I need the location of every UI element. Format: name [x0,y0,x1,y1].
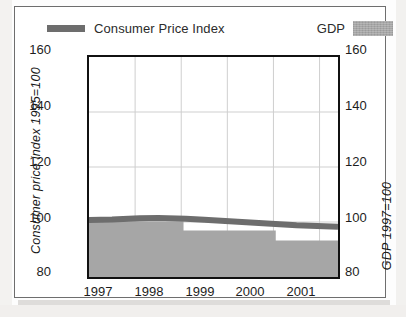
y-tick-left-80: 80 [11,264,51,279]
y-tick-right-100: 100 [345,210,385,225]
legend-item-cpi: Consumer Price Index [47,21,225,36]
y-tick-left-140: 140 [11,98,51,113]
line-swatch-icon [47,25,85,32]
plot-canvas [89,57,338,277]
scan-edge-right [396,0,406,317]
chart-root: Consumer Price Index GDP Consumer price … [0,0,406,317]
legend-label-cpi: Consumer Price Index [94,21,225,36]
y-tick-right-120: 120 [345,154,385,169]
y-tick-left-100: 100 [11,210,51,225]
y-tick-right-80: 80 [345,264,385,279]
chart-legend: Consumer Price Index GDP [29,13,401,41]
chart-outer-frame: Consumer Price Index GDP Consumer price … [14,6,386,298]
y-tick-right-140: 140 [345,98,385,113]
y-axis-title-left: Consumer price index 1995=100 [29,94,43,254]
area-swatch-icon [353,21,393,36]
legend-item-gdp: GDP [317,21,393,36]
y-tick-left-120: 120 [11,154,51,169]
legend-label-gdp: GDP [317,21,345,36]
x-tick-2001: 2001 [271,284,331,299]
scan-edge-bottom [0,305,406,317]
y-tick-left-160: 160 [11,42,51,57]
frame-shadow [18,300,390,305]
gdp-area-series [89,221,338,277]
y-tick-right-160: 160 [345,42,385,57]
plot-area [87,55,340,279]
